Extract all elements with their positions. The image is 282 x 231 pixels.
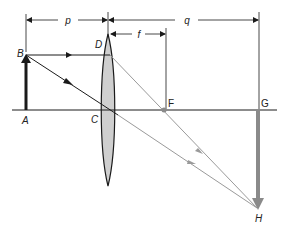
ray-direction-arrow-icon xyxy=(63,78,73,85)
p-label: p xyxy=(64,15,71,26)
point-label-c: C xyxy=(91,114,99,125)
ray-parallel-refracted xyxy=(110,55,257,208)
f-label: f xyxy=(138,29,142,40)
object-arrow xyxy=(21,54,31,110)
focal-point-marker xyxy=(162,108,167,113)
lens-ray-diagram: p q f B A C D F G H xyxy=(0,0,282,231)
ray-central-transmitted xyxy=(118,115,257,208)
q-label: q xyxy=(184,15,190,26)
ray-direction-arrow-icon xyxy=(66,52,72,58)
point-label-b: B xyxy=(17,48,24,59)
point-label-h: H xyxy=(255,213,263,224)
dimension-extension-lines xyxy=(26,12,259,109)
image-arrow xyxy=(252,110,264,210)
ray-direction-arrow-icon xyxy=(187,160,196,164)
point-label-d: D xyxy=(95,39,102,50)
point-label-a: A xyxy=(21,115,29,126)
point-label-g: G xyxy=(261,98,269,109)
point-label-f: F xyxy=(168,98,174,109)
